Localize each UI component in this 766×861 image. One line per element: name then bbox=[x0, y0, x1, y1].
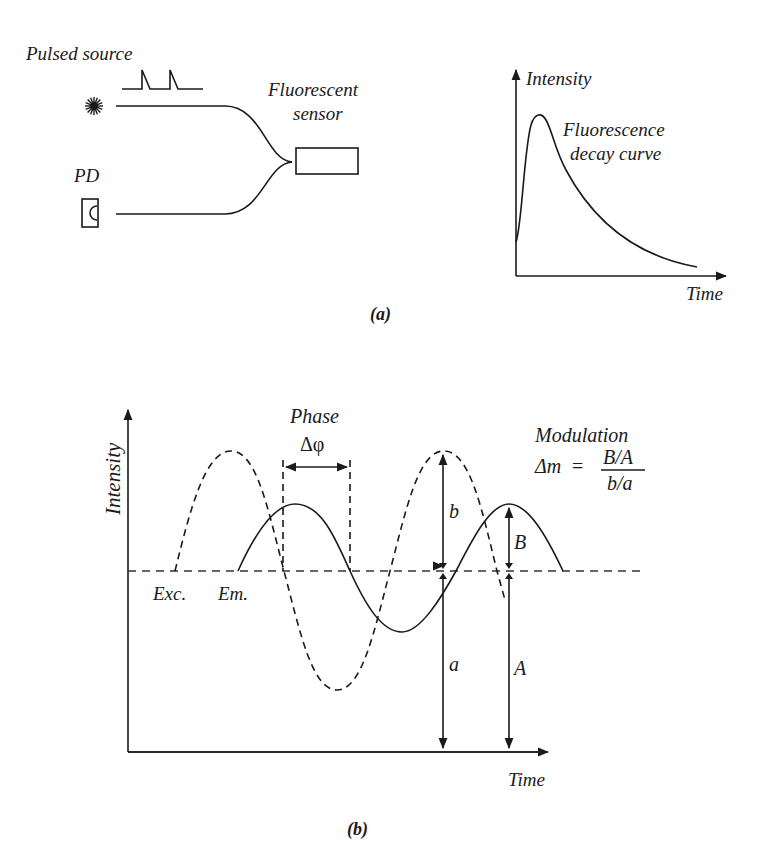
panel-a: Pulsed source Fluorescent sensor PD bbox=[25, 43, 726, 325]
phase-label: Phase bbox=[289, 405, 339, 427]
decay-plot: Intensity Time Fluorescence decay curve bbox=[516, 68, 726, 304]
panel-b-caption: (b) bbox=[347, 819, 368, 840]
phase-symbol: Δφ bbox=[300, 433, 324, 456]
B-label: B bbox=[514, 531, 526, 553]
decay-curve-label-line2: decay curve bbox=[570, 143, 661, 164]
decay-curve-label-line1: Fluorescence bbox=[562, 119, 665, 140]
modulation-equals: = bbox=[572, 455, 583, 477]
excitation-label: Exc. bbox=[152, 583, 186, 604]
modulation-formula: Modulation Δm = B/A b/a bbox=[534, 424, 645, 494]
A-label: A bbox=[512, 657, 527, 679]
emission-label: Em. bbox=[217, 583, 248, 604]
modulation-denominator: b/a bbox=[607, 472, 633, 494]
pulsed-source-label: Pulsed source bbox=[25, 43, 132, 64]
diagram-canvas: Pulsed source Fluorescent sensor PD bbox=[0, 0, 766, 861]
fluorescent-sensor-box bbox=[296, 148, 358, 174]
modulation-lhs: Δm bbox=[534, 455, 561, 477]
b-label: b bbox=[449, 500, 459, 522]
B-arrowhead-bottom bbox=[505, 563, 513, 569]
detection-fiber bbox=[116, 162, 292, 214]
decay-y-label: Intensity bbox=[525, 68, 592, 89]
emission-curve bbox=[238, 504, 563, 632]
b-arrowhead-bottom bbox=[439, 563, 447, 569]
sensor-label-line1: Fluorescent bbox=[267, 79, 359, 100]
y-axis-label: Intensity bbox=[101, 442, 125, 516]
pd-label: PD bbox=[73, 165, 100, 186]
modulation-numerator: B/A bbox=[603, 446, 634, 468]
x-axis-label: Time bbox=[508, 769, 545, 790]
decay-x-label: Time bbox=[686, 283, 723, 304]
a-label: a bbox=[449, 653, 459, 675]
sensor-label-line2: sensor bbox=[293, 103, 343, 124]
panel-b: Intensity Time Phase Δφ Exc. Em. b a B A bbox=[101, 405, 645, 840]
light-source-icon bbox=[85, 97, 103, 115]
excitation-fiber bbox=[116, 106, 292, 162]
pulse-train-icon bbox=[122, 70, 203, 89]
modulation-title: Modulation bbox=[534, 424, 628, 446]
panel-a-caption: (a) bbox=[370, 304, 391, 325]
photodiode-icon bbox=[82, 199, 98, 227]
